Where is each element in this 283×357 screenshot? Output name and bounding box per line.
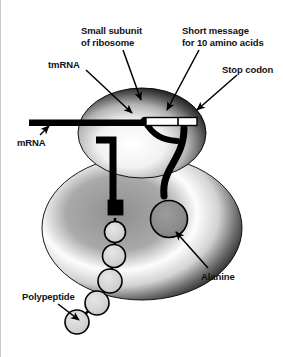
figure-canvas: Small subunit of ribosome Short message …	[0, 0, 283, 357]
polypeptide-residue	[103, 245, 126, 268]
polypeptide-residue	[65, 310, 89, 334]
label-small-subunit: Small subunit of ribosome	[81, 25, 142, 48]
alanine-residue	[151, 201, 188, 238]
polypeptide-residue	[98, 269, 122, 293]
label-short-message: Short message for 10 amino acids	[182, 25, 264, 48]
mrna-bar	[29, 120, 144, 127]
leader-stop-codon	[197, 75, 237, 110]
polypeptide-residue	[85, 291, 109, 315]
leader-mrna	[40, 126, 49, 135]
label-tmrna: tmRNA	[48, 59, 80, 71]
mrna-strand	[29, 120, 144, 127]
label-mrna: mRNA	[17, 137, 46, 149]
diagram-svg	[1, 0, 283, 357]
message-and-stop-codon	[146, 118, 197, 126]
short-message-box	[146, 118, 197, 126]
label-stop-codon: Stop codon	[222, 64, 273, 76]
tmrna-terminus-square	[108, 200, 123, 215]
polypeptide-residue	[105, 222, 126, 243]
label-polypeptide: Polypeptide	[22, 291, 75, 303]
label-alanine: Alanine	[201, 271, 235, 283]
